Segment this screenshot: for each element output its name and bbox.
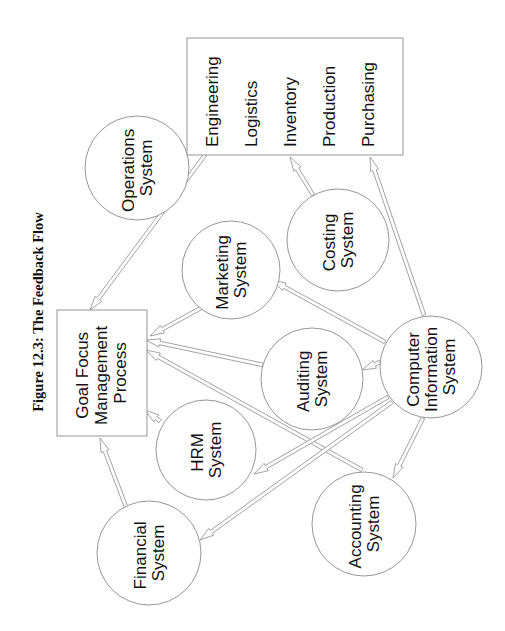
accounting-system-node: Accounting System — [312, 472, 416, 576]
costing-label-2: System — [338, 212, 357, 269]
hrm-label-2: System — [206, 422, 225, 479]
operations-label-2: System — [137, 140, 156, 197]
goal-label-line-2: Management — [92, 325, 111, 425]
function-logistics: Logistics — [242, 81, 261, 147]
function-purchasing: Purchasing — [359, 62, 378, 147]
svg-text:Financial System: Financial System — [131, 517, 168, 590]
computer-information-system-node: Computer Information System — [380, 316, 482, 418]
arrow-costing-to-functions — [290, 157, 315, 196]
feedback-flow-diagram: Figure 12.3: The Feedback Flow Goal Focu… — [0, 0, 505, 631]
function-production: Production — [320, 66, 339, 147]
business-functions-box: Engineering Logistics Inventory Producti… — [187, 38, 403, 155]
function-engineering: Engineering — [203, 56, 222, 147]
marketing-label-1: Marketing — [213, 235, 232, 310]
hrm-system-node: HRM System — [156, 400, 256, 500]
costing-label-1: Costing — [320, 214, 339, 272]
arrow-cis-to-accounting — [393, 417, 425, 478]
goal-label-line-3: Process — [111, 342, 130, 403]
svg-text:Costing System: Costing System — [320, 209, 357, 271]
costing-system-node: Costing System — [287, 189, 389, 291]
svg-text:HRM System: HRM System — [188, 422, 225, 479]
arrow-financial-to-goal — [100, 438, 128, 508]
hrm-label-1: HRM — [188, 433, 207, 472]
goal-focus-management-process-box: Goal Focus Management Process — [57, 310, 147, 436]
figure-title: Figure 12.3: The Feedback Flow — [30, 212, 46, 412]
financial-label-1: Financial — [131, 521, 150, 589]
marketing-system-node: Marketing System — [182, 221, 280, 319]
arrow-auditing-to-goal — [146, 339, 263, 367]
accounting-label-1: Accounting — [346, 484, 365, 568]
operations-label-1: Operations — [119, 129, 138, 212]
auditing-system-node: Auditing System — [261, 328, 363, 430]
operations-system-node: Operations System — [85, 116, 189, 220]
cis-label-3: System — [440, 339, 459, 396]
auditing-label-1: Auditing — [294, 351, 313, 412]
auditing-label-2: System — [312, 351, 331, 408]
svg-text:Marketing System: Marketing System — [213, 230, 250, 309]
goal-label-line-1: Goal Focus — [73, 332, 92, 419]
arrow-cis-to-auditing — [362, 360, 381, 370]
accounting-label-2: System — [364, 496, 383, 553]
svg-text:Auditing System: Auditing System — [294, 346, 331, 412]
function-inventory: Inventory — [281, 77, 300, 147]
cis-label-1: Computer — [404, 332, 423, 407]
financial-system-node: Financial System — [97, 501, 201, 605]
cis-label-2: Information — [422, 327, 441, 412]
financial-label-2: System — [149, 525, 168, 582]
marketing-label-2: System — [231, 242, 250, 299]
